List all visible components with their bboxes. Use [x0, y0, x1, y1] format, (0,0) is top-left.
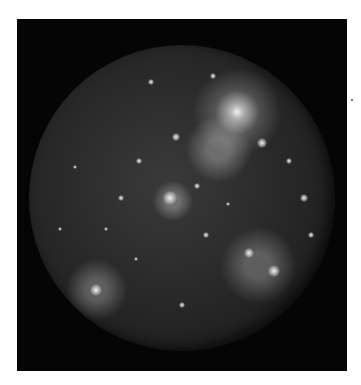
crater-bright-spot [268, 265, 280, 277]
crater-bright-spot [104, 227, 108, 231]
dust-speck [351, 99, 353, 101]
crater-bright-spot [244, 248, 254, 258]
crater-bright-spot [226, 202, 230, 206]
crater-bright-spot [118, 195, 124, 201]
crater-bright-spot [203, 232, 209, 238]
crater-bright-spot [308, 232, 314, 238]
crater-bright-spot [134, 257, 138, 261]
crater-bright-spot [136, 158, 142, 164]
crater-bright-spot [194, 183, 200, 189]
crater-bright-spot [73, 165, 77, 169]
crater-bright-spot [228, 103, 246, 121]
crater-bright-spot [286, 158, 292, 164]
crater-bright-spot [300, 194, 308, 202]
crater-bright-spot [58, 227, 62, 231]
moon-sphere [29, 45, 335, 351]
crater-bright-spot [257, 138, 267, 148]
crater-bright-spot [163, 191, 177, 205]
crater-bright-spot [210, 73, 216, 79]
crater-bright-spot [90, 284, 102, 296]
crater-bright-spot [179, 302, 185, 308]
crater-bright-spot [148, 79, 154, 85]
crater-bright-spot [172, 133, 180, 141]
